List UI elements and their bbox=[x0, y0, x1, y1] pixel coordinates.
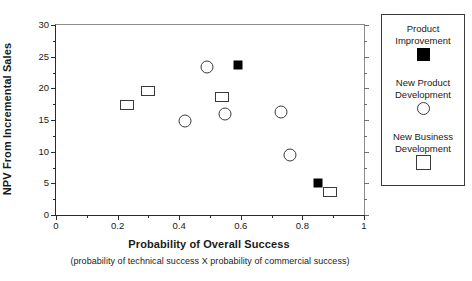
y-tick-minor-right bbox=[364, 168, 367, 169]
marker-open-circle bbox=[200, 61, 213, 74]
x-tick-minor bbox=[272, 215, 273, 218]
y-tick-major-right bbox=[364, 25, 369, 26]
x-tick-label: 0.8 bbox=[296, 221, 309, 231]
y-tick-major bbox=[51, 120, 56, 121]
y-tick-minor bbox=[53, 168, 56, 169]
marker-open-square bbox=[120, 100, 134, 110]
y-tick-minor-right bbox=[364, 73, 367, 74]
y-tick-major-right bbox=[364, 152, 369, 153]
legend-label-line: Product bbox=[382, 23, 464, 35]
marker-open-circle bbox=[219, 107, 232, 120]
y-tick-label: 25 bbox=[38, 52, 49, 62]
y-tick-minor-right bbox=[364, 41, 367, 42]
y-tick-minor-right bbox=[364, 136, 367, 137]
x-tick-label: 0.2 bbox=[111, 221, 124, 231]
x-tick-minor bbox=[333, 215, 334, 218]
y-tick-label: 15 bbox=[38, 115, 49, 125]
y-tick-minor-right bbox=[364, 199, 367, 200]
y-tick-major-right bbox=[364, 88, 369, 89]
legend-item[interactable]: New ProductDevelopment bbox=[382, 77, 464, 116]
y-tick-major bbox=[51, 152, 56, 153]
x-tick-label: 0.4 bbox=[173, 221, 186, 231]
x-tick-label: 0.6 bbox=[234, 221, 247, 231]
marker-filled-square bbox=[233, 60, 242, 69]
y-tick-minor bbox=[53, 136, 56, 137]
y-tick-major-right bbox=[364, 120, 369, 121]
y-tick-major bbox=[51, 57, 56, 58]
y-tick-label: 5 bbox=[44, 179, 49, 189]
legend-label-line: Improvement bbox=[382, 35, 464, 47]
legend-item[interactable]: New BusinessDevelopment bbox=[382, 131, 464, 170]
marker-open-square bbox=[141, 86, 155, 96]
open-circle-icon bbox=[417, 102, 430, 115]
y-tick-major bbox=[51, 88, 56, 89]
y-tick-major-right bbox=[364, 183, 369, 184]
legend-swatch-wrap bbox=[382, 100, 464, 116]
y-axis-title: NPV From Incremental Sales bbox=[1, 43, 13, 195]
y-tick-major-right bbox=[364, 57, 369, 58]
filled-square-icon bbox=[417, 48, 430, 61]
y-tick-label: 10 bbox=[38, 147, 49, 157]
legend-label-line: Development bbox=[382, 89, 464, 101]
marker-open-circle bbox=[284, 148, 297, 161]
legend-label-line: New Product bbox=[382, 77, 464, 89]
marker-open-square bbox=[323, 187, 337, 197]
legend-label-line: New Business bbox=[382, 131, 464, 143]
x-axis-subtitle: (probability of technical success X prob… bbox=[30, 256, 390, 266]
y-tick-minor bbox=[53, 73, 56, 74]
open-square-icon bbox=[416, 155, 431, 170]
x-tick-minor bbox=[87, 215, 88, 218]
y-tick-minor bbox=[53, 199, 56, 200]
legend-label-line: Development bbox=[382, 143, 464, 155]
legend-swatch-wrap bbox=[382, 154, 464, 170]
x-axis-title: Probability of Overall Success bbox=[55, 238, 363, 250]
x-tick-minor bbox=[148, 215, 149, 218]
chart-figure: NPV From Incremental Sales 051015202530 … bbox=[0, 0, 472, 281]
y-tick-minor-right bbox=[364, 104, 367, 105]
y-tick-label: 0 bbox=[44, 210, 49, 220]
marker-open-circle bbox=[179, 115, 192, 128]
chart-legend: ProductImprovementNew ProductDevelopment… bbox=[381, 14, 465, 186]
marker-open-square bbox=[215, 92, 229, 102]
x-tick-label: 1 bbox=[361, 221, 366, 231]
legend-swatch-wrap bbox=[382, 46, 464, 62]
y-tick-label: 20 bbox=[38, 84, 49, 94]
marker-open-circle bbox=[274, 105, 287, 118]
y-tick-minor bbox=[53, 41, 56, 42]
y-tick-major bbox=[51, 183, 56, 184]
x-tick-label: 0 bbox=[53, 221, 58, 231]
legend-item[interactable]: ProductImprovement bbox=[382, 23, 464, 62]
y-tick-label: 30 bbox=[38, 20, 49, 30]
y-tick-minor bbox=[53, 104, 56, 105]
plot-area: 051015202530 00.20.40.60.81 bbox=[55, 24, 365, 216]
x-tick-minor bbox=[210, 215, 211, 218]
y-tick-major bbox=[51, 25, 56, 26]
marker-filled-square bbox=[313, 179, 322, 188]
